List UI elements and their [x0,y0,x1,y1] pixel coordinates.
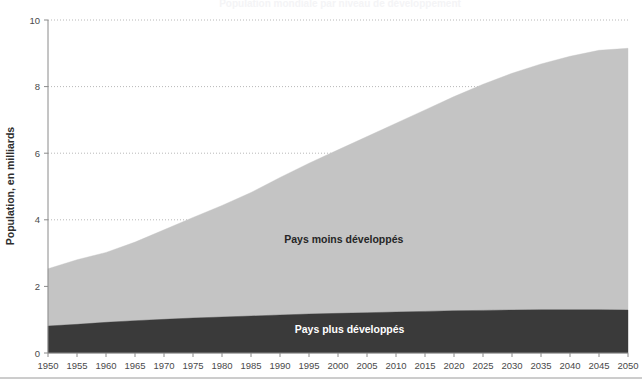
x-tick-label-2010: 2010 [385,360,406,371]
y-tick-label-4: 4 [35,214,40,225]
y-tick-label-0: 0 [35,348,40,359]
x-tick-label-1980: 1980 [211,360,232,371]
y-axis-title: Population, en milliards [4,127,16,246]
x-tick-label-1960: 1960 [95,360,116,371]
x-tick-label-2000: 2000 [327,360,348,371]
x-tick-label-1990: 1990 [269,360,290,371]
x-tick-label-2025: 2025 [472,360,493,371]
x-tick-label-2045: 2045 [588,360,609,371]
chart-canvas: Population mondiale par niveau de dévelo… [0,0,642,383]
x-tick-label-2035: 2035 [530,360,551,371]
x-tick-label-2040: 2040 [559,360,580,371]
x-tick-label-2015: 2015 [414,360,435,371]
y-tick-label-10: 10 [29,15,40,26]
series-label-1: Pays moins développés [284,233,403,245]
x-tick-label-1965: 1965 [124,360,145,371]
x-tick-label-2005: 2005 [356,360,377,371]
x-tick-label-1985: 1985 [240,360,261,371]
chart-title: Population mondiale par niveau de dévelo… [219,0,461,9]
x-tick-label-1955: 1955 [66,360,87,371]
y-tick-label-8: 8 [35,81,40,92]
x-tick-label-2030: 2030 [501,360,522,371]
x-tick-label-1975: 1975 [182,360,203,371]
series-label-0: Pays plus développés [295,323,405,335]
y-tick-label-2: 2 [35,281,40,292]
y-tick-label-6: 6 [35,148,40,159]
x-tick-label-1995: 1995 [298,360,319,371]
population-area-chart: Population mondiale par niveau de dévelo… [0,0,642,383]
x-tick-label-2020: 2020 [443,360,464,371]
x-tick-label-2050: 2050 [617,360,638,371]
x-tick-label-1970: 1970 [153,360,174,371]
x-tick-label-1950: 1950 [37,360,58,371]
